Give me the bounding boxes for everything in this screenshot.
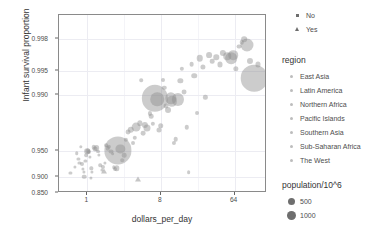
population-legend-title: population/10^6 (282, 180, 342, 190)
region-swatch-icon (282, 75, 300, 78)
region-legend-label: Latin America (300, 87, 342, 94)
x-tick-label: 64 (219, 196, 249, 203)
data-point (101, 168, 107, 173)
data-point (89, 176, 92, 179)
population-legend-item[interactable]: 500 (282, 194, 342, 208)
region-legend-label: Southern Asia (300, 129, 344, 136)
data-point (98, 153, 101, 156)
data-point (213, 54, 218, 59)
region-legend-label: The West (300, 157, 330, 164)
population-bubble-icon (282, 211, 300, 220)
y-tick-label: 0.995 (12, 66, 48, 73)
gridline-vertical-minor (124, 15, 125, 191)
x-axis-title: dollars_per_day (54, 214, 270, 224)
region-legend: region East AsiaLatin AmericaNorthern Af… (282, 55, 361, 167)
region-legend-item[interactable]: Southern Asia (282, 125, 361, 139)
y-tick-label: 0.990 (12, 90, 48, 97)
data-point (149, 114, 154, 119)
data-point (140, 131, 145, 136)
data-point (87, 150, 91, 154)
population-legend-label: 500 (300, 198, 312, 205)
data-point (187, 170, 191, 174)
data-point (241, 39, 254, 52)
data-point (158, 123, 164, 129)
data-point (210, 59, 215, 64)
data-point (143, 124, 150, 131)
shape-legend: NoYes (288, 8, 317, 36)
data-point (178, 79, 183, 84)
data-point (217, 62, 222, 67)
x-tick-label: 1 (71, 196, 101, 203)
data-point (229, 50, 239, 60)
region-swatch-icon (282, 89, 300, 92)
data-point (182, 89, 187, 94)
x-tick-mark (86, 192, 87, 195)
shape-legend-label: Yes (306, 26, 317, 33)
region-legend-item[interactable]: East Asia (282, 69, 361, 83)
shape-legend-item[interactable]: No (288, 8, 317, 22)
region-swatch-icon (282, 103, 300, 106)
data-point (114, 166, 119, 171)
region-legend-label: East Asia (300, 73, 329, 80)
y-tick-label: 0.850 (12, 189, 48, 196)
data-point (184, 125, 188, 129)
data-point (151, 122, 155, 126)
data-point (135, 176, 141, 181)
data-point (247, 58, 253, 64)
data-point (91, 170, 94, 173)
region-legend-item[interactable]: Pacific Islands (282, 111, 361, 125)
data-point (197, 55, 204, 62)
data-point (203, 95, 207, 99)
data-point (206, 52, 212, 58)
data-point (82, 171, 85, 174)
region-legend-label: Sub-Saharan Africa (300, 143, 361, 150)
shape-legend-item[interactable]: Yes (288, 22, 317, 36)
data-point (122, 153, 127, 158)
data-point (69, 171, 72, 174)
region-swatch-icon (282, 145, 300, 148)
data-point (189, 62, 194, 67)
region-legend-label: Pacific Islands (300, 115, 345, 122)
data-point (241, 65, 266, 92)
data-point (88, 156, 91, 159)
region-legend-title: region (282, 55, 361, 65)
data-point (82, 174, 87, 179)
data-point (174, 137, 179, 142)
region-legend-item[interactable]: Northern Africa (282, 97, 361, 111)
data-point (103, 161, 106, 164)
y-tick-label: 0.998 (12, 34, 48, 41)
data-point (131, 141, 135, 145)
gridline-vertical-minor (198, 15, 199, 191)
triangle-icon (288, 27, 306, 31)
region-swatch-icon (282, 131, 300, 134)
population-legend-item[interactable]: 1000 (282, 208, 342, 222)
data-point (73, 166, 76, 169)
data-point (161, 78, 165, 82)
data-point (121, 158, 125, 162)
data-point (191, 73, 197, 79)
region-legend-label: Northern Africa (300, 101, 347, 108)
data-point (80, 162, 84, 166)
square-dot-icon (288, 14, 306, 17)
gridline-vertical (87, 15, 88, 191)
population-bubble-icon (282, 198, 300, 205)
region-swatch-icon (282, 117, 300, 120)
data-point (165, 107, 171, 113)
region-legend-item[interactable]: Sub-Saharan Africa (282, 139, 361, 153)
region-legend-item[interactable]: Latin America (282, 83, 361, 97)
gridline-horizontal (59, 39, 265, 40)
x-tick-mark (234, 192, 235, 195)
data-point (162, 85, 166, 89)
data-point (77, 157, 80, 160)
region-legend-item[interactable]: The West (282, 153, 361, 167)
data-point (195, 112, 199, 116)
data-point (132, 136, 136, 140)
data-point (140, 78, 144, 82)
plot-panel (58, 14, 266, 192)
data-point (200, 64, 205, 69)
y-tick-label: 0.900 (12, 173, 48, 180)
y-tick-label: 0.950 (12, 147, 48, 154)
population-legend-label: 1000 (300, 212, 316, 219)
region-swatch-icon (282, 159, 300, 162)
data-point (255, 62, 260, 67)
